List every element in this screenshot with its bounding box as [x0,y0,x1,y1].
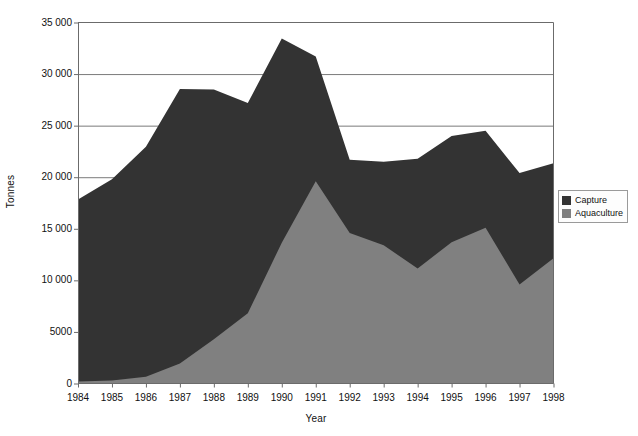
legend-label-capture: Capture [575,196,607,205]
legend-swatch-capture [562,196,571,205]
y-axis-title: Tonnes [5,162,16,222]
legend-swatch-aquaculture [562,209,571,218]
legend-item-capture[interactable]: Capture [562,194,623,206]
x-axis-title: Year [78,413,554,424]
legend-label-aquaculture: Aquaculture [575,209,623,218]
area-chart: 0500010 00015 00020 00025 00030 00035 00… [0,0,638,436]
x-axis-tick-labels: 1984198519861987198819891990199119921993… [0,0,638,436]
chart-legend: Capture Aquaculture [558,190,628,223]
legend-item-aquaculture[interactable]: Aquaculture [562,207,623,219]
x-tick-label: 1998 [534,393,574,403]
